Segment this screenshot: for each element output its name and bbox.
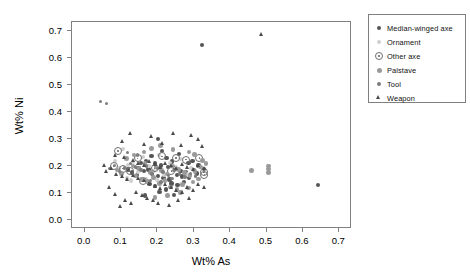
x-axis-tick (266, 228, 267, 232)
legend-marker-icon (369, 21, 387, 35)
y-axis-tick-label: 0.6 (31, 52, 62, 63)
legend-item-median-winged-axe[interactable]: Median-winged axe (369, 21, 467, 35)
legend-item-label: Median-winged axe (387, 24, 453, 33)
x-axis-tick-label: 0.3 (186, 235, 199, 246)
x-axis-tick (193, 228, 194, 232)
legend-marker-icon (369, 35, 387, 49)
legend-marker-icon (369, 91, 387, 105)
legend-item-palstave[interactable]: Palstave (369, 63, 467, 77)
x-axis-tick-label: 0.4 (223, 235, 236, 246)
x-axis-tick-label: 0.6 (295, 235, 308, 246)
legend-item-label: Palstave (387, 66, 416, 75)
legend-item-other-axe[interactable]: Other axe (369, 49, 467, 63)
y-axis-tick-label: 0.7 (31, 25, 62, 36)
legend-marker-icon (369, 49, 387, 63)
x-axis-tick-label: 0.5 (259, 235, 272, 246)
x-axis-tick (338, 228, 339, 232)
legend-marker-glyph (376, 95, 380, 99)
legend-item-tool[interactable]: Tool (369, 77, 467, 91)
legend-marker-glyph (377, 26, 382, 31)
legend-item-weapon[interactable]: Weapon (369, 91, 467, 105)
x-axis-tick-label: 0.7 (332, 235, 345, 246)
y-axis-tick-label: 0.4 (31, 106, 62, 117)
x-axis-tick (229, 228, 230, 232)
y-axis-tick-label: 0.2 (31, 159, 62, 170)
legend-item-label: Tool (387, 80, 401, 89)
legend-marker-glyph (375, 52, 383, 60)
y-axis-tick-label: 0.0 (31, 213, 62, 224)
plot-area (71, 21, 351, 228)
legend-marker-glyph (377, 68, 382, 73)
x-axis-label: Wt% As (71, 255, 351, 267)
x-axis-tick (120, 228, 121, 232)
legend-marker-glyph (377, 82, 381, 86)
marker-center-dot (378, 55, 380, 57)
legend-marker-icon (369, 63, 387, 77)
y-axis-tick-label: 0.1 (31, 186, 62, 197)
legend-marker-icon (369, 77, 387, 91)
legend-item-label: Other axe (387, 52, 420, 61)
legend-item-label: Weapon (387, 94, 415, 103)
x-axis-tick-label: 0.1 (113, 235, 126, 246)
y-axis-tick-label: 0.3 (31, 132, 62, 143)
x-axis-tick (156, 228, 157, 232)
x-axis-tick (302, 228, 303, 232)
legend-item-label: Ornament (387, 38, 421, 47)
legend-box: Median-winged axeOrnamentOther axePalsta… (368, 14, 466, 103)
y-axis-label: Wt% Ni (13, 76, 25, 156)
x-axis-tick-label: 0.0 (77, 235, 90, 246)
x-axis-tick-label: 0.2 (150, 235, 163, 246)
legend-item-ornament[interactable]: Ornament (369, 35, 467, 49)
legend-marker-glyph (377, 40, 382, 45)
x-axis-tick (84, 228, 85, 232)
y-axis-tick-label: 0.5 (31, 79, 62, 90)
